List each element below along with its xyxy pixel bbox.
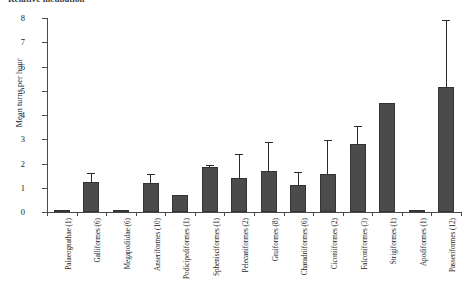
- x-axis-label: Anseriformes (10): [154, 218, 162, 271]
- y-tick-group: 3: [0, 139, 47, 140]
- x-tick-mark: [313, 212, 314, 216]
- bar: [143, 183, 159, 212]
- x-axis-label: Passeriformes (12): [449, 218, 457, 272]
- y-tick-group: 2: [0, 164, 47, 165]
- error-bar: [268, 142, 269, 171]
- y-tick-group: 1: [0, 188, 47, 189]
- x-tick-mark: [165, 212, 166, 216]
- y-tick-group: 6: [0, 67, 47, 68]
- bar: [261, 171, 277, 212]
- y-tick-group: 0: [0, 212, 47, 213]
- bar: [54, 210, 70, 212]
- y-tick-label: 7: [1, 37, 25, 47]
- error-bar: [327, 140, 328, 175]
- error-bar-cap: [87, 173, 95, 174]
- y-tick-label: 8: [1, 13, 25, 23]
- bar: [202, 167, 218, 212]
- x-axis-label: Pelecaniformes (2): [242, 218, 250, 272]
- x-axis-label: Strigiformes (1): [390, 218, 398, 264]
- x-axis-label: Galliformes (6): [94, 218, 102, 263]
- x-tick-mark: [47, 212, 48, 216]
- x-axis-label: Apodiformes (1): [420, 218, 428, 266]
- y-tick-group: 7: [0, 42, 47, 43]
- error-bar: [150, 174, 151, 183]
- error-bar-cap: [324, 140, 332, 141]
- error-bar-cap: [354, 126, 362, 127]
- x-tick-mark: [136, 212, 137, 216]
- error-bar: [91, 173, 92, 182]
- bar: [350, 144, 366, 212]
- error-bar-cap: [265, 142, 273, 143]
- x-axis-label: Ciconiiformes (2): [331, 218, 339, 269]
- y-tick-label: 4: [1, 110, 25, 120]
- plot-area: [47, 18, 461, 212]
- y-tick-label: 5: [1, 86, 25, 96]
- x-tick-mark: [77, 212, 78, 216]
- bar: [438, 87, 454, 212]
- bar: [113, 210, 129, 212]
- error-bar-cap: [294, 172, 302, 173]
- y-tick-label: 2: [1, 159, 25, 169]
- bar: [172, 195, 188, 212]
- x-tick-mark: [343, 212, 344, 216]
- error-bar: [446, 20, 447, 87]
- bar: [379, 103, 395, 212]
- x-axis-label: Podicipediformes (1): [183, 218, 191, 279]
- x-tick-mark: [461, 212, 462, 216]
- error-bar-cap: [442, 20, 450, 21]
- error-bar: [239, 154, 240, 177]
- figure-container: Relative incubation Mean turns per hour …: [0, 0, 465, 296]
- bar: [231, 178, 247, 212]
- x-axis-label: Charadriiformes (6): [301, 218, 309, 275]
- x-tick-mark: [195, 212, 196, 216]
- x-axis-label: Megapodiidae (6): [124, 218, 132, 269]
- x-axis-label: Falconiformes (3): [361, 218, 369, 270]
- error-bar-cap: [206, 165, 214, 166]
- clipped-header-text: Relative incubation: [8, 0, 85, 4]
- x-tick-mark: [431, 212, 432, 216]
- error-bar: [298, 172, 299, 185]
- x-tick-mark: [224, 212, 225, 216]
- x-axis-label: Sphenisciformes (1): [213, 218, 221, 276]
- bar: [83, 182, 99, 212]
- y-tick-label: 3: [1, 134, 25, 144]
- x-axis-label: Gruiformes (8): [272, 218, 280, 261]
- x-tick-mark: [284, 212, 285, 216]
- error-bar-cap: [235, 154, 243, 155]
- y-tick-group: 5: [0, 91, 47, 92]
- x-tick-mark: [372, 212, 373, 216]
- bar: [320, 174, 336, 212]
- bar: [290, 185, 306, 212]
- y-tick-group: 4: [0, 115, 47, 116]
- x-axis-label: Palaeognathae (1): [65, 218, 73, 270]
- y-tick-label: 0: [1, 207, 25, 217]
- error-bar-cap: [147, 174, 155, 175]
- bar: [409, 210, 425, 212]
- y-tick-group: 8: [0, 18, 47, 19]
- y-tick-label: 6: [1, 62, 25, 72]
- y-tick-label: 1: [1, 183, 25, 193]
- error-bar: [357, 126, 358, 144]
- x-tick-mark: [402, 212, 403, 216]
- x-tick-mark: [254, 212, 255, 216]
- x-tick-mark: [106, 212, 107, 216]
